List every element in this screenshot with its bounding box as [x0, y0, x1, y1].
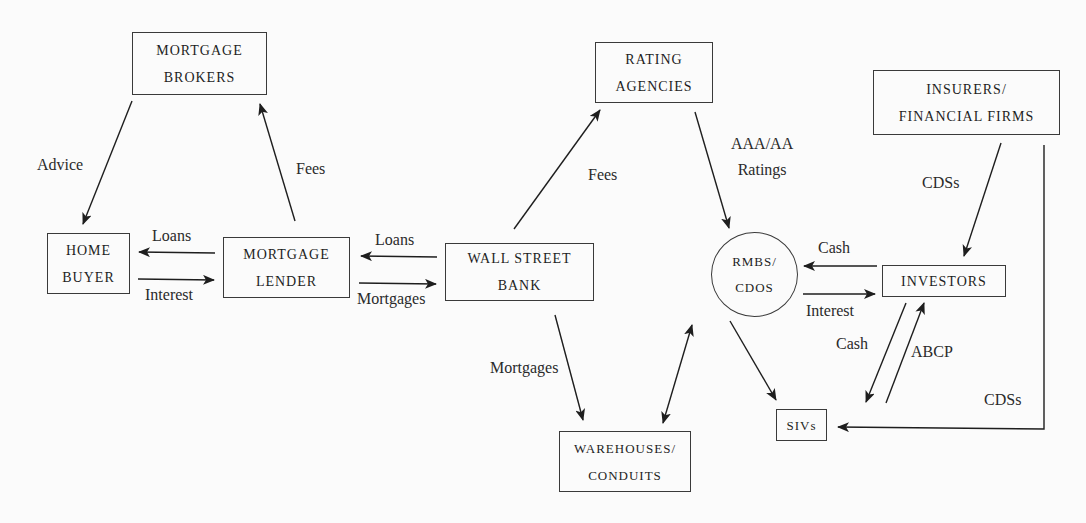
node-label: WAREHOUSES/ [574, 435, 676, 462]
node-wall-street-bank: WALL STREET BANK [445, 243, 594, 301]
node-label: INSURERS/ [926, 76, 1007, 103]
node-sivs: SIVs [776, 409, 827, 441]
label-cash-to-sivs: Cash [836, 335, 868, 353]
label-ratings: AAA/AA Ratings [731, 131, 793, 183]
node-label: BROKERS [164, 64, 236, 91]
node-label: AGENCIES [615, 73, 692, 100]
arrow-mortgages-to-bank [359, 283, 436, 284]
arrow-loans-to-buyer [139, 252, 215, 253]
node-label: RMBS/ [732, 249, 777, 275]
node-mortgage-lender: MORTGAGE LENDER [223, 237, 350, 298]
node-label: FINANCIAL FIRMS [899, 103, 1034, 130]
label-loans-to-lender: Loans [375, 231, 414, 249]
label-interest-to-lender: Interest [145, 286, 193, 304]
arrow-ratings [695, 112, 729, 228]
node-rmbs-cdos: RMBS/ CDOs [711, 232, 798, 317]
arrow-warehouses-rmbs [663, 325, 692, 423]
arrow-cash-to-sivs [866, 303, 906, 402]
arrow-interest-to-lender [138, 279, 214, 280]
node-label: CDOs [735, 275, 774, 301]
node-label: CONDUITS [588, 462, 662, 489]
node-label: LENDER [256, 268, 317, 295]
node-home-buyer: HOME BUYER [47, 233, 130, 294]
node-label: BANK [498, 272, 542, 299]
label-line: Ratings [731, 157, 793, 183]
label-advice: Advice [37, 156, 83, 174]
node-label: MORTGAGE [156, 37, 243, 64]
node-label: RATING [625, 46, 682, 73]
node-label: MORTGAGE [243, 241, 330, 268]
node-investors: INVESTORS [882, 265, 1006, 297]
arrow-fees-brokers [260, 104, 295, 221]
label-line: AAA/AA [731, 131, 793, 157]
label-cash-to-rmbs: Cash [818, 239, 850, 257]
arrow-loans-to-lender [361, 256, 437, 257]
node-mortgage-brokers: MORTGAGE BROKERS [132, 32, 267, 95]
node-warehouses-conduits: WAREHOUSES/ CONDUITS [559, 431, 691, 492]
label-fees-brokers: Fees [296, 160, 325, 178]
node-label: WALL STREET [467, 245, 571, 272]
label-abcp-to-investors: ABCP [911, 343, 953, 361]
arrow-cdss-to-investors [964, 143, 1001, 256]
label-fees-rating: Fees [588, 166, 617, 184]
label-cdss-to-investors: CDSs [922, 174, 959, 192]
mortgage-flow-diagram: MORTGAGE BROKERS HOME BUYER MORTGAGE LEN… [0, 0, 1086, 523]
label-cdss-to-sivs: CDSs [984, 391, 1021, 409]
arrow-rmbs-to-sivs [730, 321, 776, 400]
label-mortgages-to-bank: Mortgages [357, 290, 425, 308]
arrow-mortgages-to-warehouses [555, 315, 583, 420]
node-label: HOME [66, 237, 111, 264]
arrow-advice [83, 101, 132, 224]
label-interest-to-investors: Interest [806, 302, 854, 320]
node-label: BUYER [62, 264, 114, 291]
node-label: INVESTORS [901, 268, 987, 295]
label-mortgages-to-warehouses: Mortgages [490, 359, 558, 377]
node-label: SIVs [786, 412, 816, 439]
node-rating-agencies: RATING AGENCIES [595, 42, 713, 103]
label-loans-to-buyer: Loans [152, 227, 191, 245]
node-insurers-financial-firms: INSURERS/ FINANCIAL FIRMS [873, 70, 1060, 135]
